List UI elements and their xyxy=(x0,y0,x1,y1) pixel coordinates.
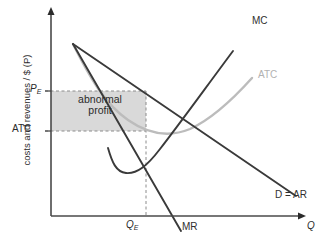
y-axis-label: costs and revenues / $ (P) xyxy=(22,35,32,185)
quantity-tick-symbol: Q xyxy=(126,219,134,230)
diagram-canvas xyxy=(0,0,325,249)
price-tick-label: PE xyxy=(30,84,41,95)
abnormal-profit-label-line2: profit xyxy=(58,105,142,116)
y-axis-arrowhead xyxy=(48,7,55,15)
x-axis-arrowhead xyxy=(298,213,306,220)
mr-line xyxy=(73,44,181,231)
price-tick-subscript: E xyxy=(37,88,42,95)
atc-curve-label: ATC xyxy=(258,70,277,81)
abnormal-profit-label: abnormal profit xyxy=(58,94,142,116)
price-tick-symbol: P xyxy=(30,83,37,94)
atc-tick-label: ATC xyxy=(12,124,31,135)
quantity-tick-subscript: E xyxy=(134,224,139,231)
quantity-tick-label: QE xyxy=(126,220,138,231)
economics-diagram: costs and revenues / $ (P) PE ATC QE MC … xyxy=(0,0,325,249)
demand-ar-label: D = AR xyxy=(275,190,307,201)
x-axis-label: Q xyxy=(307,221,315,232)
mc-curve-label: MC xyxy=(252,16,268,27)
mr-curve-label: MR xyxy=(182,222,198,233)
